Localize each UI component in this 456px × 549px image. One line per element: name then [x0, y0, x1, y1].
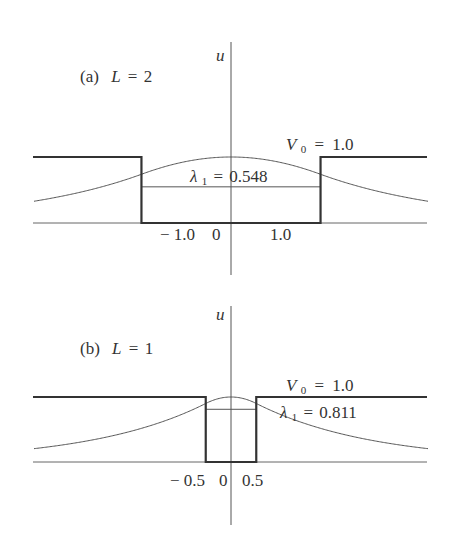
panel-a: u (a) L = 2 V 0 = 1.0 λ 1 = 0.548 − 1.0 … [33, 42, 428, 275]
x-tick-label: − 1.0 [160, 225, 195, 244]
panel-var: L [110, 67, 120, 86]
eigen-var: λ [279, 403, 287, 422]
potential-var: V [286, 376, 299, 395]
panel-letter: (a) [80, 67, 99, 86]
equals-sign: = [314, 135, 324, 154]
potential-value: 1.0 [332, 376, 353, 395]
panel-b: u (b) L = 1 V 0 = 1.0 λ 1 = 0.811 − 0.5 … [33, 305, 428, 525]
panel-var: L [111, 339, 121, 358]
eigen-value: 0.811 [319, 403, 357, 422]
equals-sign: = [213, 167, 223, 186]
x-tick-label: 0 [212, 225, 221, 244]
eigen-sub: 1 [292, 411, 298, 423]
eigen-value: 0.548 [229, 167, 267, 186]
potential-var: V [286, 135, 299, 154]
potential-label: V 0 = 1.0 [286, 135, 353, 157]
panel-letter: (b) [80, 339, 100, 358]
equals-sign: = [129, 339, 139, 358]
panel-value: 1 [145, 339, 154, 358]
eigenvalue-label: λ 1 = 0.811 [279, 403, 357, 425]
figure: u (a) L = 2 V 0 = 1.0 λ 1 = 0.548 − 1.0 … [0, 0, 456, 549]
y-axis-label: u [216, 46, 225, 65]
eigenvalue-label: λ 1 = 0.548 [189, 167, 267, 189]
x-tick-label: 0.5 [242, 471, 263, 490]
panel-label: (b) L = 1 [80, 339, 153, 358]
potential-sub: 0 [301, 143, 307, 155]
equals-sign: = [303, 403, 313, 422]
x-tick-label: 1.0 [270, 225, 291, 244]
potential-label: V 0 = 1.0 [286, 376, 353, 398]
equals-sign: = [314, 376, 324, 395]
eigen-sub: 1 [202, 175, 208, 187]
x-tick-label: 0 [219, 471, 228, 490]
panel-label: (a) L = 2 [80, 67, 152, 86]
eigen-var: λ [189, 167, 197, 186]
y-axis-label: u [216, 305, 225, 324]
x-tick-label: − 0.5 [170, 471, 205, 490]
equals-sign: = [128, 67, 138, 86]
potential-step [33, 397, 427, 462]
potential-value: 1.0 [332, 135, 353, 154]
panel-value: 2 [144, 67, 153, 86]
potential-sub: 0 [301, 384, 307, 396]
